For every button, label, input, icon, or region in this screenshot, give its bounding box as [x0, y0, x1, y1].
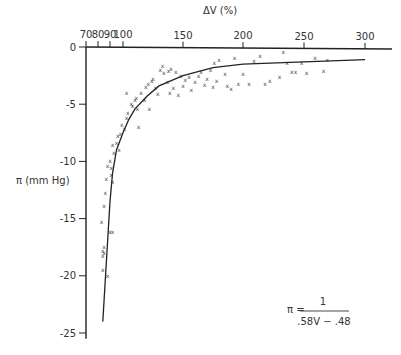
x-tick-label: 150	[173, 30, 192, 41]
data-point-marker: x	[101, 266, 105, 273]
x-axis-label: ΔV (%)	[203, 5, 237, 16]
data-point-marker: x	[134, 94, 138, 101]
data-point-marker: x	[148, 105, 152, 112]
data-point-marker: x	[294, 68, 298, 75]
x-tick-label: 250	[294, 31, 313, 42]
data-point-marker: x	[103, 189, 107, 196]
data-point-marker: x	[281, 48, 285, 55]
data-point-marker: x	[263, 80, 267, 87]
data-point-marker: x	[162, 69, 166, 76]
data-point-marker: x	[151, 75, 155, 82]
data-point-marker: x	[247, 80, 251, 87]
data-point-marker: x	[174, 68, 178, 75]
data-point-marker: x	[111, 228, 115, 235]
data-point-marker: x	[305, 69, 309, 76]
data-point-marker: x	[105, 175, 109, 182]
data-point-marker: x	[217, 56, 221, 63]
data-point-marker: x	[229, 85, 233, 92]
formula-denominator: .58V − .48	[297, 316, 350, 327]
data-point-marker: x	[169, 65, 173, 72]
data-point-marker: x	[268, 77, 272, 84]
data-point-marker: x	[223, 70, 227, 77]
data-point-marker: x	[125, 89, 129, 96]
data-point-marker: x	[100, 218, 104, 225]
scatter-chart: 7080901001502002503000-5-10-15-20-25 xxx…	[0, 0, 401, 355]
y-tick-label: 0	[70, 42, 76, 53]
data-point-marker: x	[102, 243, 106, 250]
x-tick-label: 200	[233, 30, 252, 41]
y-tick-label: -20	[60, 270, 76, 281]
axis-ticks: 7080901001502002503000-5-10-15-20-25	[60, 29, 375, 339]
x-axis-line	[86, 47, 392, 49]
formula-lhs: π =	[287, 304, 305, 315]
data-point-marker: x	[313, 54, 317, 61]
data-point-marker: x	[158, 66, 162, 73]
y-tick-label: -25	[60, 328, 76, 339]
data-points: xxxxxxxxxxxxxxxxxxxxxxxxxxxxxxxxxxxxxxxx…	[100, 48, 330, 279]
data-point-marker: x	[258, 52, 262, 59]
x-tick-label: 80	[92, 29, 105, 40]
data-point-marker: x	[126, 109, 130, 116]
data-point-marker: x	[193, 78, 197, 85]
data-point-marker: x	[278, 73, 282, 80]
data-point-marker: x	[205, 75, 209, 82]
data-point-marker: x	[131, 102, 135, 109]
y-tick-label: -5	[66, 99, 76, 110]
y-tick-label: -15	[60, 213, 76, 224]
formula-numerator: 1	[320, 296, 326, 307]
data-point-marker: x	[209, 66, 213, 73]
data-point-marker: x	[252, 57, 256, 64]
data-point-marker: x	[212, 59, 216, 66]
data-point-marker: x	[236, 80, 240, 87]
data-point-marker: x	[137, 123, 141, 130]
data-point-marker: x	[322, 67, 326, 74]
x-tick-label: 70	[80, 29, 93, 40]
data-point-marker: x	[241, 70, 245, 77]
data-point-marker: x	[215, 77, 219, 84]
data-point-marker: x	[176, 91, 180, 98]
axes	[86, 47, 392, 339]
data-point-marker: x	[190, 86, 194, 93]
formula-annotation: π = 1 .58V − .48	[287, 296, 351, 327]
data-point-marker: x	[106, 272, 110, 279]
data-point-marker: x	[156, 90, 160, 97]
x-tick-label: 100	[113, 29, 132, 40]
x-tick-label: 300	[355, 31, 374, 42]
y-tick-label: -10	[60, 156, 76, 167]
data-point-marker: x	[102, 202, 106, 209]
data-point-marker: x	[233, 54, 237, 61]
data-point-marker: x	[172, 84, 176, 91]
y-axis-label: π (mm Hg)	[16, 175, 70, 186]
